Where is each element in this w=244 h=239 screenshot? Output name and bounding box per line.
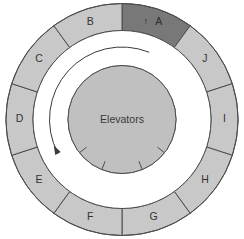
segment-label-i: I [223,112,226,124]
segment-label-d: D [16,112,24,124]
segment-label-j: J [202,52,207,64]
segment-label-c: C [35,52,43,64]
floor-plan-diagram: A↑JIHGFEDCB Elevators [0,0,244,239]
segment-label-h: H [201,173,209,185]
up-arrow-marker-icon: ↑ [143,16,148,26]
segment-label-f: F [87,210,93,222]
floor-plan-svg: A↑JIHGFEDCB Elevators [0,0,244,239]
segment-label-e: E [36,173,43,185]
segment-label-a: A [155,15,162,27]
elevator-core-label: Elevators [100,113,144,125]
segment-label-g: G [150,210,158,222]
segment-label-b: B [87,15,94,27]
